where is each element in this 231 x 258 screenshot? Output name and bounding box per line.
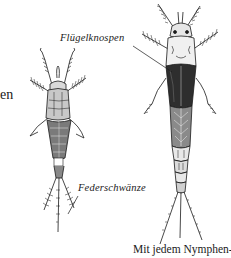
illustration-canvas: Flügelknospen Federschwänze en Mit jedem… <box>0 0 231 258</box>
feather-tails-label: Federschwänze <box>78 183 146 194</box>
left-nymph <box>30 48 86 232</box>
right-nymph <box>142 4 218 244</box>
cut-off-text-fragment: en <box>0 88 13 102</box>
caption-fragment: Mit jedem Nymphen- <box>133 244 231 256</box>
wing-buds-label: Flügelknospen <box>60 33 124 44</box>
